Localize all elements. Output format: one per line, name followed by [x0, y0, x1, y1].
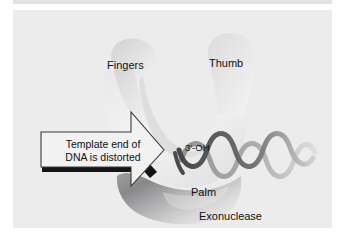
top-divider-rule — [13, 0, 332, 4]
illustration-panel: Fingers Thumb 3'-OH Palm Exonuclease Tem… — [13, 10, 332, 228]
label-fingers: Fingers — [107, 59, 144, 71]
callout-line-2: DNA is distorted — [57, 151, 149, 164]
label-exonuclease: Exonuclease — [199, 210, 262, 222]
diagram-svg — [13, 10, 332, 228]
callout-text-block: Template end of DNA is distorted — [57, 138, 149, 163]
label-three-prime-oh: 3'-OH — [185, 142, 210, 154]
figure-root: Fingers Thumb 3'-OH Palm Exonuclease Tem… — [0, 0, 345, 244]
label-palm: Palm — [191, 186, 216, 198]
callout-line-1: Template end of — [57, 138, 149, 151]
label-thumb: Thumb — [209, 57, 243, 69]
